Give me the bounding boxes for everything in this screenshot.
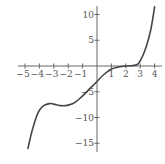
x-tick-label: 3 (137, 69, 143, 79)
y-tick-label: 5 (88, 35, 94, 45)
x-tick-label: 4 (152, 69, 158, 79)
y-tick-label: −10 (75, 113, 94, 123)
x-tick-label: −5 (16, 69, 30, 79)
x-tick-label: −1 (74, 69, 87, 79)
x-tick-label: −2 (60, 69, 73, 79)
axes (18, 6, 162, 152)
chart: −5−4−3−2−11234 105−5−10−15 (0, 0, 165, 164)
x-tick-label: −3 (45, 69, 59, 79)
y-tick-label: 10 (83, 10, 95, 20)
x-tick-label: 2 (123, 69, 129, 79)
x-tick-label: −4 (31, 69, 45, 79)
y-tick-label: −15 (75, 138, 94, 148)
